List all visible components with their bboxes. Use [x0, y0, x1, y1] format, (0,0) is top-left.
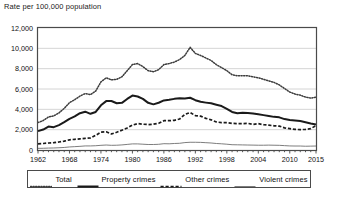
- chart-legend: TotalProperty crimesOther crimesViolent …: [27, 170, 311, 188]
- y-axis-tick-label: 4,000: [15, 105, 33, 114]
- y-axis-tick-label: 8,000: [15, 64, 33, 73]
- x-axis-tick-label: 1968: [61, 155, 77, 164]
- legend-item-total: Total: [30, 175, 71, 184]
- x-axis-tick-label: 1962: [30, 155, 46, 164]
- x-axis-tick-label: 2010: [282, 155, 298, 164]
- x-axis-tick-label: 2004: [250, 155, 266, 164]
- x-axis-tick-label: 1986: [156, 155, 172, 164]
- legend-swatch-icon: [77, 176, 99, 183]
- x-axis-tick-label: 2015: [308, 155, 324, 164]
- legend-swatch-icon: [30, 176, 52, 183]
- legend-label: Total: [55, 175, 71, 184]
- legend-label: Property crimes: [102, 175, 156, 184]
- legend-item-other-crimes: Other crimes: [160, 175, 229, 184]
- y-axis-tick-label: 0: [29, 146, 33, 155]
- y-axis-tick-label: 2,000: [15, 125, 33, 134]
- x-axis-tick-labels: 1962196819741980198619921998200420102015: [30, 155, 324, 164]
- crime-rate-line-chart: Rate per 100,000 population 12,00010,000…: [0, 0, 338, 200]
- y-axis-tick-label: 6,000: [15, 85, 33, 94]
- series-line-total: [38, 47, 316, 122]
- legend-label: Violent crimes: [259, 175, 307, 184]
- y-axis-tick-labels: 12,00010,0008,0006,0004,0002,0000: [11, 24, 33, 155]
- legend-swatch-icon: [160, 176, 182, 183]
- legend-label: Other crimes: [185, 175, 229, 184]
- y-axis-tick-label: 12,000: [11, 24, 33, 33]
- legend-item-property-crimes: Property crimes: [77, 175, 156, 184]
- y-axis-tick-label: 10,000: [11, 44, 33, 53]
- x-axis-tick-label: 1980: [124, 155, 140, 164]
- series-line-violent-crimes: [38, 142, 316, 148]
- x-axis-tick-label: 1974: [93, 155, 109, 164]
- legend-item-violent-crimes: Violent crimes: [234, 175, 307, 184]
- data-series-lines: [38, 47, 316, 148]
- x-axis-tick-label: 1998: [219, 155, 235, 164]
- x-axis-tick-label: 1992: [187, 155, 203, 164]
- legend-swatch-icon: [234, 176, 256, 183]
